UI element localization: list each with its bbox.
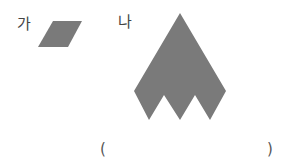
answer-paren-close: ): [267, 142, 273, 157]
shape-na: [134, 13, 226, 120]
figure-canvas: [0, 0, 287, 167]
answer-paren-open: (: [100, 142, 106, 157]
rhombus-tile-ga: [38, 21, 82, 47]
